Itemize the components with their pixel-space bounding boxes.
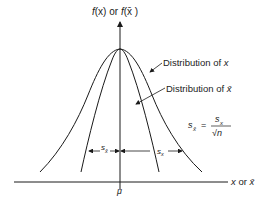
svg-text:√n: √n xyxy=(212,128,222,138)
leader-line-x xyxy=(150,63,162,72)
x-axis-label: x or x̄ xyxy=(230,176,255,187)
svg-text:x̄: x̄ xyxy=(192,126,197,132)
spread-label-narrow: sx̄ xyxy=(101,143,108,154)
label-distribution-x: Distribution of x xyxy=(163,57,230,68)
svg-text:=: = xyxy=(201,120,206,130)
mu-label: μ xyxy=(116,186,122,196)
label-distribution-xbar: Distribution of x̄ xyxy=(166,83,233,94)
standard-error-formula: s x̄ = s x √n xyxy=(188,114,231,138)
spread-label-wide: sx xyxy=(157,147,164,157)
y-axis-label: f(x) or f(x̄ ) xyxy=(92,6,138,17)
sampling-distribution-diagram: f(x) or f(x̄ ) Distribution of x Distrib… xyxy=(0,0,271,201)
svg-text:x: x xyxy=(219,120,224,126)
